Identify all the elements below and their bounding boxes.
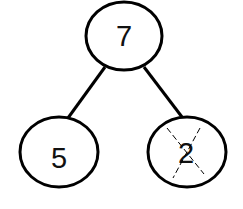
node-whole-label: 7 xyxy=(116,20,132,52)
node-part-left-label: 5 xyxy=(51,142,67,174)
edge-whole-to-right xyxy=(144,67,182,117)
node-part-left: 5 xyxy=(20,117,98,187)
number-bond-diagram: 7 5 2 xyxy=(0,0,243,209)
node-part-right: 2 xyxy=(148,117,226,187)
node-whole: 7 xyxy=(86,2,162,70)
edge-whole-to-left xyxy=(68,67,105,118)
